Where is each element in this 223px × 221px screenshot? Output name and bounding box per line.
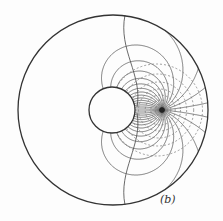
field-line <box>165 111 206 133</box>
figure-label: (b) <box>160 193 176 206</box>
field-line <box>165 103 208 110</box>
field-diagram: (b) <box>0 0 223 221</box>
field-line <box>165 87 206 109</box>
source-point <box>159 107 165 113</box>
inner-conductor-circle <box>89 87 135 133</box>
diagram-canvas: (b) <box>0 0 223 221</box>
